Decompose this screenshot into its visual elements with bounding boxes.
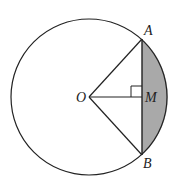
label-B: B [143, 156, 152, 171]
radius-OA [89, 39, 142, 97]
radius-OB [89, 97, 142, 155]
label-M: M [144, 90, 158, 105]
right-angle-marker [131, 86, 142, 97]
label-A: A [143, 23, 153, 38]
label-O: O [76, 90, 86, 105]
circle-diagram: A M B O [0, 0, 178, 187]
